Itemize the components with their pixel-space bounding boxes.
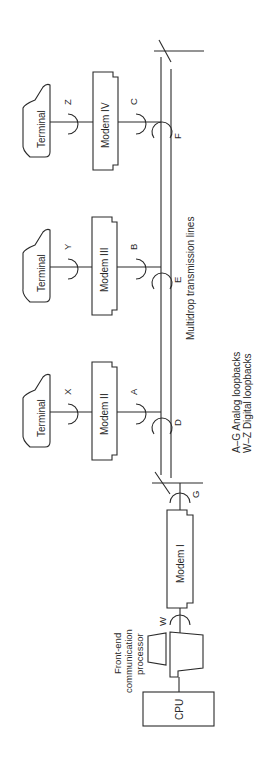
- multidrop-diagram: Modem IV Modem III Modem II Modem I Term…: [0, 0, 255, 762]
- front-end-processor: [148, 632, 203, 692]
- modem-2-label: Modem II: [99, 393, 110, 435]
- fep-label-line-1: Front-end: [112, 633, 123, 674]
- modem-1-label: Modem I: [175, 544, 186, 583]
- loopback-w: W: [157, 617, 168, 626]
- loopback-z: Z: [62, 99, 73, 105]
- legend-digital: W–Z Digital loopbacks: [242, 354, 253, 453]
- modem-3-label: Modem III: [99, 248, 110, 292]
- modem-4-label: Modem IV: [100, 102, 111, 148]
- loopback-f: F: [172, 133, 183, 139]
- loopback-c: C: [128, 98, 139, 105]
- loopback-y: Y: [62, 243, 73, 250]
- legend-analog: A–G Analog loopbacks: [231, 352, 242, 453]
- loopback-e: E: [172, 277, 183, 283]
- loopback-g: G: [190, 491, 201, 498]
- fep-label-line-3: processor: [134, 633, 145, 675]
- terminal-2-label: Terminal: [36, 399, 47, 437]
- fep-label-line-2: communication: [123, 629, 134, 693]
- loopback-b: B: [128, 244, 139, 250]
- cpu-label: CPU: [174, 699, 185, 720]
- loopback-x: X: [62, 388, 73, 395]
- loopback-a: A: [128, 388, 139, 395]
- loopback-d: D: [172, 419, 183, 426]
- terminal-4-label: Terminal: [36, 110, 47, 148]
- multidrop-line-label: Multidrop transmission lines: [185, 217, 196, 340]
- terminal-3-label: Terminal: [36, 254, 47, 292]
